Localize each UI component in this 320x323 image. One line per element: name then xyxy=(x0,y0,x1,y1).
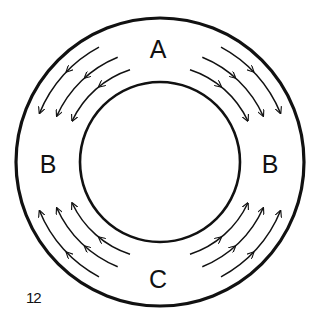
flow-arrow-lower-right xyxy=(221,211,281,277)
flow-arrow-lower-right xyxy=(202,208,263,267)
flow-arrow-upper-left xyxy=(72,70,130,121)
flow-arrow-lower-right xyxy=(190,203,248,254)
figure-number: 12 xyxy=(26,290,41,305)
flow-arrow-lower-left xyxy=(40,211,100,277)
flow-arrow-upper-left xyxy=(57,57,118,116)
flow-arrow-upper-right xyxy=(190,70,248,121)
inner-ring xyxy=(80,82,240,242)
flow-arrow-lower-left xyxy=(72,203,130,254)
label-left-b: B xyxy=(40,152,57,177)
flow-arrow-upper-right xyxy=(221,47,281,113)
flow-arrow-lower-left xyxy=(57,208,118,267)
label-bottom-c: C xyxy=(149,267,167,292)
label-top-a: A xyxy=(150,37,167,62)
flow-arrow-upper-right xyxy=(202,57,263,116)
label-right-b: B xyxy=(262,152,279,177)
flow-arrow-upper-left xyxy=(40,47,100,113)
